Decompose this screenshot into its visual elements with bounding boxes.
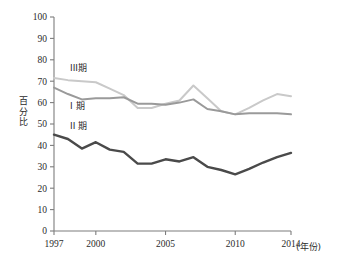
y-axis-title-char-2: 分 [16,107,30,118]
y-axis-tick-label: 100 [33,12,48,22]
y-axis-ticks [50,17,54,231]
y-axis-tick-label: 80 [38,55,48,65]
series-label-i期: I 期 [70,101,85,111]
line-chart: 0102030405060708090100 19972000200520102… [0,0,351,268]
y-axis-tick-label: 30 [38,162,48,172]
x-axis-tick-label: 1997 [45,239,64,249]
series-label-iii期: III期 [70,63,87,73]
series-line-iii期 [54,78,291,114]
y-axis-tick-labels: 0102030405060708090100 [33,12,48,236]
x-axis-tick-label: 2010 [226,239,245,249]
x-axis-title: (年份) [296,241,321,252]
y-axis-tick-label: 60 [38,98,48,108]
y-axis-title-char-1: 百 [16,96,30,107]
y-axis-tick-label: 70 [38,77,48,87]
y-axis-tick-label: 90 [38,34,48,44]
x-axis: 19972000200520102014 [45,231,301,249]
y-axis: 0102030405060708090100 [33,12,54,236]
y-axis-title: 百 分 比 [16,96,30,128]
series-annotations: III期I 期II 期 [70,63,87,131]
x-axis-tick-label: 2000 [86,239,105,249]
x-axis-tick-labels: 19972000200520102014 [45,239,301,249]
y-axis-tick-label: 40 [38,141,48,151]
series-label-ii期: II 期 [70,121,87,131]
y-axis-tick-label: 50 [38,119,48,129]
x-axis-tick-label: 2005 [156,239,175,249]
chart-container: 0102030405060708090100 19972000200520102… [0,0,351,268]
series-line-i期 [54,88,291,115]
series-line-ii期 [54,135,291,175]
data-series-group [54,78,291,174]
y-axis-title-char-3: 比 [16,117,30,128]
x-axis-ticks [54,231,291,235]
y-axis-tick-label: 20 [38,184,48,194]
y-axis-tick-label: 0 [42,226,47,236]
y-axis-tick-label: 10 [38,205,48,215]
